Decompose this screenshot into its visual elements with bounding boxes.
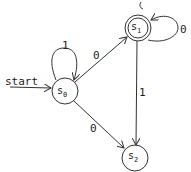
partial-glyph: [140, 2, 143, 9]
edge-s0-s1: [75, 37, 127, 82]
start-label: start: [5, 76, 38, 87]
state-s1-label: s1: [131, 22, 141, 35]
edge-label-s0-s2: 0: [90, 123, 97, 134]
s1-self-loop: [148, 16, 178, 41]
edge-label-s0-s0: 1: [62, 40, 69, 51]
edge-s0-s2: [74, 101, 124, 148]
edge-label-s0-s1: 0: [93, 50, 100, 61]
s0-self-loop: [52, 48, 77, 80]
edge-label-s1-s1: 0: [180, 24, 187, 35]
state-s2-label: s2: [128, 151, 138, 164]
edge-label-s1-s2: 1: [139, 87, 146, 98]
state-s0-label: s0: [57, 86, 67, 99]
edge-s1-s2: [136, 41, 137, 145]
